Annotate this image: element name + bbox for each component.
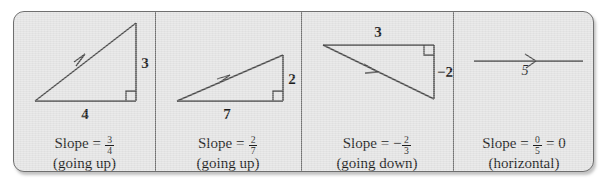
horizontal-line-diagram: 5 (453, 12, 595, 132)
fraction-numerator: 2 (249, 135, 258, 145)
caption-negative-two-thirds: Slope = −23 (going down) (301, 135, 453, 172)
slope-equation: Slope = 05 = 0 (453, 135, 595, 156)
fraction-numerator: 3 (105, 135, 114, 145)
figure-frame: 3 4 Slope = 34 (going up) 2 7 (13, 11, 594, 172)
panel-positive-three-fourths: 3 4 Slope = 34 (going up) (14, 12, 155, 171)
fraction-numerator: 2 (402, 135, 411, 145)
run-label: 5 (522, 63, 529, 78)
direction-description: (going up) (14, 156, 155, 172)
slope-sign: − (393, 135, 401, 151)
direction-description: (horizontal) (453, 156, 595, 172)
slope-equation: Slope = 27 (155, 135, 301, 156)
direction-description: (going up) (155, 156, 301, 172)
slope-equation: Slope = −23 (301, 135, 453, 156)
slope-fraction: 05 (533, 135, 542, 156)
run-label: 3 (374, 24, 382, 40)
right-angle-marker-icon (424, 45, 434, 55)
slope-examples-figure: 3 4 Slope = 34 (going up) 2 7 (0, 0, 608, 186)
rise-label: −2 (437, 64, 453, 80)
triangle-diagram-three-fourths: 3 4 (14, 12, 155, 132)
slope-suffix: = 0 (546, 135, 566, 151)
panel-negative-two-thirds: 3 −2 Slope = −23 (going down) (301, 12, 453, 171)
slope-prefix: Slope = (198, 135, 244, 151)
slope-fraction: 23 (402, 135, 411, 156)
slope-prefix: Slope = (482, 135, 528, 151)
slope-prefix: Slope = (343, 135, 389, 151)
hypotenuse (177, 55, 283, 101)
caption-zero-slope: Slope = 05 = 0 (horizontal) (453, 135, 595, 172)
panel-positive-two-sevenths: 2 7 Slope = 27 (going up) (155, 12, 301, 171)
slope-fraction: 27 (249, 135, 258, 156)
triangle-diagram-negative-two-thirds: 3 −2 (301, 12, 453, 132)
caption-three-fourths: Slope = 34 (going up) (14, 135, 155, 172)
hypotenuse (35, 23, 136, 101)
direction-arrowhead-icon (364, 64, 378, 73)
hypotenuse (323, 45, 434, 99)
fraction-numerator: 0 (533, 135, 542, 145)
direction-description: (going down) (301, 156, 453, 172)
slope-prefix: Slope = (55, 135, 101, 151)
triangle-diagram-two-sevenths: 2 7 (155, 12, 301, 132)
slope-fraction: 34 (105, 135, 114, 156)
run-label: 7 (223, 106, 231, 122)
right-angle-marker-icon (273, 91, 283, 101)
slope-equation: Slope = 34 (14, 135, 155, 156)
run-label: 4 (81, 106, 89, 122)
rise-label: 2 (288, 71, 296, 87)
panel-zero-slope: 5 Slope = 05 = 0 (horizontal) (453, 12, 595, 171)
rise-label: 3 (141, 55, 149, 71)
caption-two-sevenths: Slope = 27 (going up) (155, 135, 301, 172)
right-angle-marker-icon (126, 91, 136, 101)
